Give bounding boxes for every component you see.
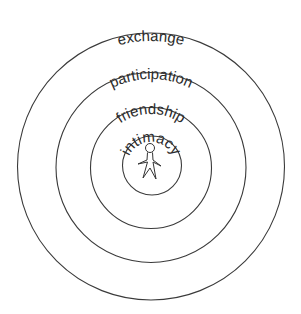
- label-participation: participation: [106, 65, 195, 91]
- ring-friendship: [91, 108, 212, 229]
- label-exchange: exchange: [116, 27, 187, 48]
- concentric-circles-diagram: exchange participation friendship intima…: [0, 0, 301, 314]
- label-intimacy: intimacy: [117, 128, 186, 159]
- person-icon: [138, 144, 161, 180]
